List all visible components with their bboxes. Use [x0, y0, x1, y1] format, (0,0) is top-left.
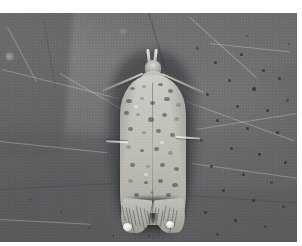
plate-margin-top: [0, 0, 302, 13]
image-frame: moth: [0, 0, 302, 246]
plate-margin-right: [297, 0, 302, 246]
plate-margin-bottom: [0, 242, 302, 246]
photo-grain-overlay: [0, 13, 297, 242]
moth-photograph: [0, 13, 297, 242]
